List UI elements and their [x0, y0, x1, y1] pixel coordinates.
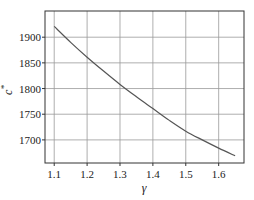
x-axis-label: γ: [142, 181, 147, 195]
series-line-c-star: [54, 26, 235, 155]
y-axis-ticks: 17001750180018501900: [19, 31, 45, 146]
x-tick-label: 1.1: [47, 168, 61, 180]
y-axis-label: c*: [0, 85, 15, 95]
y-tick-label: 1900: [19, 31, 42, 43]
x-tick-label: 1.3: [113, 168, 127, 180]
line-chart: 1.11.21.31.41.51.6 17001750180018501900 …: [0, 0, 254, 200]
x-tick-label: 1.5: [179, 168, 193, 180]
x-tick-label: 1.2: [80, 168, 94, 180]
y-tick-label: 1750: [19, 108, 42, 120]
x-tick-label: 1.4: [146, 168, 160, 180]
x-axis-ticks: 1.11.21.31.41.51.6: [47, 163, 226, 180]
x-tick-label: 1.6: [212, 168, 226, 180]
grid-lines: [45, 11, 244, 163]
y-tick-label: 1700: [19, 134, 42, 146]
y-tick-label: 1850: [19, 57, 42, 69]
y-tick-label: 1800: [19, 83, 42, 95]
